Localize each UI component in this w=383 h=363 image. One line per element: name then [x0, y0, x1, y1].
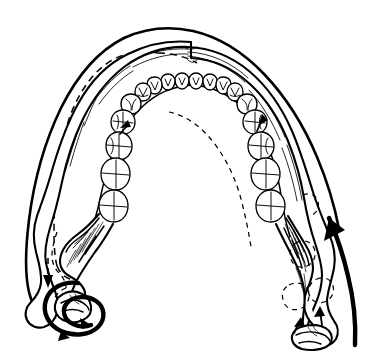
tooth-left-molar-4 — [99, 190, 128, 222]
tooth-right-molar-3 — [251, 158, 280, 190]
mandible-illustration-svg: Mandible lateral excursion diagram — [0, 0, 383, 363]
tooth-left-molar-2 — [106, 132, 132, 160]
tooth-right-molar-4 — [256, 190, 285, 222]
anatomical-figure: Mandible lateral excursion diagram — [0, 0, 383, 363]
tooth-left-molar-3 — [101, 158, 130, 190]
tooth-right-molar-2 — [248, 132, 274, 160]
tooth-left-incisor-1 — [175, 73, 189, 89]
tooth-left-incisor-2 — [161, 74, 175, 90]
tooth-right-incisor-1 — [189, 73, 203, 89]
tooth-right-incisor-2 — [203, 74, 217, 90]
